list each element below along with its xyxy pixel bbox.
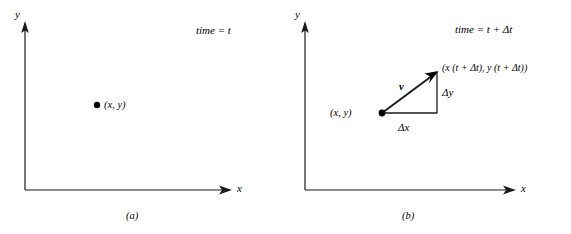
panel-a-graphics xyxy=(0,0,285,234)
panel-caption-b: (b) xyxy=(402,211,414,222)
time-label-b: time = t + Δt xyxy=(455,24,512,35)
time-label-a: time = t xyxy=(196,25,231,36)
point-marker-b xyxy=(379,110,386,117)
x-axis-label-b: x xyxy=(521,183,526,194)
figure-canvas: y x time = t (x, y) (a) y x time = t xyxy=(0,0,571,234)
point-label-a: (x, y) xyxy=(104,100,126,111)
y-axis-label-b: y xyxy=(295,9,300,20)
x-axis-label-a: x xyxy=(237,183,242,194)
panel-b-graphics xyxy=(285,0,571,234)
point-marker-a xyxy=(94,102,100,108)
delta-x-label: Δx xyxy=(398,122,409,133)
panel-caption-a: (a) xyxy=(126,211,138,222)
displaced-point-label: (x (t + Δt), y (t + Δt)) xyxy=(442,63,527,73)
point-label-b: (x, y) xyxy=(330,108,352,119)
delta-y-label: Δy xyxy=(442,87,453,98)
panel-a: y x time = t (x, y) (a) xyxy=(0,0,285,234)
panel-b: y x time = t + Δt (x, y) v Δx Δy (x (t +… xyxy=(285,0,571,234)
y-axis-label-a: y xyxy=(15,9,20,20)
velocity-vector-line xyxy=(382,76,433,114)
velocity-vector-label: v xyxy=(399,81,404,92)
